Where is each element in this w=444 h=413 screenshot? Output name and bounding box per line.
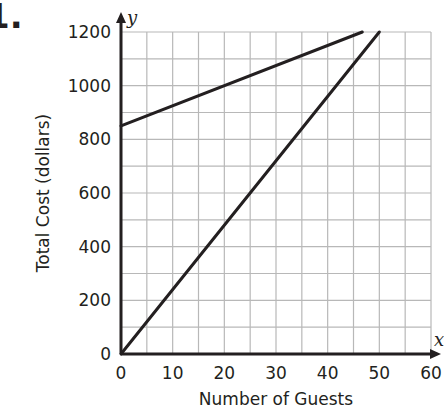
- line-chart: 0102030405060020040060080010001200 Numbe…: [0, 0, 444, 413]
- x-tick-label: 30: [265, 363, 287, 383]
- x-tick-label: 20: [214, 363, 236, 383]
- x-tick-label: 10: [162, 363, 184, 383]
- y-axis-title: Total Cost (dollars): [33, 114, 53, 273]
- data-line: [121, 32, 362, 126]
- y-axis-arrow-icon: [116, 12, 126, 23]
- x-tick-label: 50: [369, 363, 391, 383]
- x-tick-label: 60: [420, 363, 442, 383]
- x-tick-label: 40: [317, 363, 339, 383]
- x-axis-title: Number of Guests: [199, 389, 353, 409]
- y-tick-label: 800: [79, 129, 111, 149]
- y-tick-label: 400: [79, 237, 111, 257]
- y-tick-label: 1000: [68, 76, 111, 96]
- tick-labels: 0102030405060020040060080010001200: [68, 22, 442, 383]
- y-tick-label: 600: [79, 183, 111, 203]
- y-tick-label: 1200: [68, 22, 111, 42]
- y-axis-variable: y: [126, 7, 138, 28]
- y-tick-label: 0: [100, 344, 111, 364]
- grid-lines: [121, 32, 431, 354]
- x-tick-label: 0: [116, 363, 127, 383]
- x-axis-arrow-icon: [430, 349, 441, 359]
- y-tick-label: 200: [79, 290, 111, 310]
- x-axis-variable: x: [434, 329, 444, 350]
